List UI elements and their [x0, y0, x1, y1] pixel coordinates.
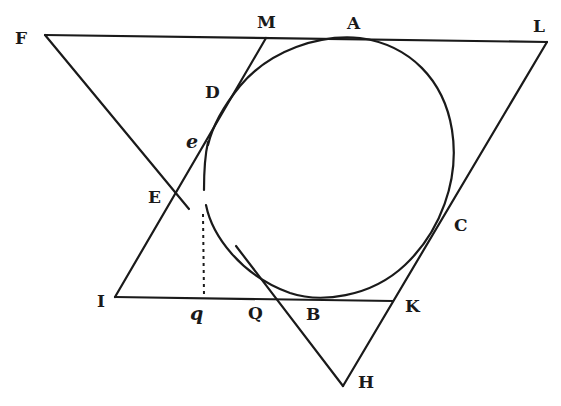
line-MI	[115, 38, 266, 297]
label-F: F	[15, 28, 27, 48]
label-L: L	[533, 16, 545, 36]
line-IK	[115, 297, 393, 301]
label-D: D	[205, 82, 220, 102]
geometry-diagram: F M A L D e E C I q Q B K H	[0, 0, 561, 406]
label-I: I	[97, 291, 105, 311]
label-K: K	[405, 296, 421, 316]
label-B: B	[306, 304, 320, 324]
label-M: M	[257, 12, 276, 32]
line-LH	[343, 42, 547, 386]
label-e: e	[186, 130, 198, 152]
dotted-line-q	[203, 214, 204, 296]
label-C: C	[454, 215, 468, 235]
line-FL	[45, 35, 547, 42]
line-FE	[45, 35, 189, 209]
label-A: A	[346, 13, 361, 33]
label-q: q	[190, 302, 203, 324]
label-Q: Q	[248, 303, 263, 323]
curve-branch-e	[204, 142, 208, 190]
label-E: E	[148, 187, 161, 207]
label-H: H	[358, 372, 374, 392]
